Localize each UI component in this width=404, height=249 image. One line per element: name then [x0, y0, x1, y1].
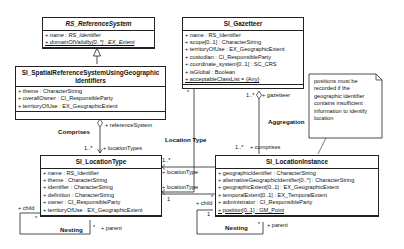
attribute-list: + name : RS_Identifier + scope[0..1] : C… [183, 31, 303, 86]
mult-location-type-one: 1 [167, 196, 170, 203]
mult-location-types: 1..* [84, 145, 92, 152]
class-si-gazetteer[interactable]: SI_Gazetteer + name : RS_Identifier + sc… [182, 17, 304, 89]
mult-comprises: 1..* [235, 144, 243, 151]
class-si-spatial-reference-system[interactable]: SI_SpatialReferenceSystemUsingGeographic… [15, 66, 166, 120]
aggregation-diamond-icon [98, 119, 103, 127]
assoc-name-nesting-type: Nesting [60, 226, 83, 233]
role-child-type: + child [18, 205, 34, 212]
attribute: + territoryOfUse : EX_GeographicExtent [43, 207, 159, 214]
class-si-location-instance[interactable]: SI_LocationInstance + geographicIdentifi… [215, 155, 379, 217]
assoc-name-comprises: Comprises [58, 128, 90, 135]
attribute: + temporalExtent[0..1] : EX_TemporalExte… [218, 192, 376, 199]
attribute: + position[0..1] : GM_Point [218, 207, 376, 214]
attribute: + overallOwner : CI_ResponsibleParty [18, 95, 163, 102]
mult-parent-type: * [93, 224, 95, 231]
class-name: SI_Gazetteer [183, 18, 303, 31]
attribute: + custodian : CI_ResponsibleParty [185, 54, 301, 61]
class-name: SI_LocationInstance [216, 156, 378, 169]
class-si-location-type[interactable]: SI_LocationType + name : RS_Identifier +… [40, 155, 162, 217]
attribute-list: + name : RS_Identifier + domainOfValidit… [43, 31, 154, 49]
mult-gazetteer: 1..* [246, 92, 254, 99]
mult-child-instance: * [211, 194, 213, 201]
class-name-line1: SI_SpatialReferenceSystemUsingGeographic [17, 69, 164, 77]
mult-location-type-top: 1..* [162, 157, 170, 164]
role-reference-system: + referenceSystem [105, 122, 152, 129]
role-location-type-b: + locationType [162, 184, 198, 191]
locationtype-assoc-line [162, 160, 222, 167]
aggregation-diamond-icon [257, 91, 262, 99]
attribute: + alternativeGeographicIdentifier[0..*] … [218, 177, 376, 184]
attribute: + coordinate_system[0..1] : SC_CRS [185, 61, 301, 68]
attribute: + territoryOfUse : EX_GeographicExtent [185, 46, 301, 53]
note-text: positions must be recorded if the geogra… [310, 75, 380, 125]
generalization-arrow-icon [94, 48, 101, 56]
note-anchor-line [318, 138, 326, 154]
class-name: SI_LocationType [41, 156, 161, 169]
attribute: + scope[0..1] : CharacterString [185, 39, 301, 46]
attribute: + isGlobal : Boolean [185, 69, 301, 76]
attribute: + territoryOfUse : EX_GeographicExtent [18, 103, 163, 110]
role-parent-instance: + parent [267, 222, 288, 229]
attribute: + geographicIdentifier : CharacterString [218, 170, 376, 177]
role-location-types: + locationTypes [103, 145, 142, 152]
role-location-type-a: + locationType [162, 169, 198, 176]
assoc-name-location-type: Location Type [165, 136, 206, 143]
role-comprises: + comprises [250, 144, 280, 151]
mult-parent-instance: * [258, 221, 260, 228]
attribute-list: + theme : CharacterString + overallOwner… [16, 87, 165, 112]
attribute: + theme : CharacterString [18, 88, 163, 95]
attribute: + owner : CI_ResponsibleParty [43, 199, 159, 206]
attribute: + theme : CharacterString [43, 177, 159, 184]
attribute: + administrator : CI_ResponsibleParty [218, 199, 376, 206]
class-name: SI_SpatialReferenceSystemUsingGeographic… [16, 67, 165, 87]
attribute: + name : RS_Identifier [185, 32, 301, 39]
role-child-instance: + child [196, 200, 212, 207]
attribute: + domainOfValidity[0..*] : EX_Extent [45, 39, 152, 46]
attribute: + name : RS_Identifier [45, 32, 152, 39]
role-parent-type: + parent [101, 225, 122, 232]
assoc-name-aggregation: Aggregation [268, 118, 304, 125]
mult-gazetteer-star: * [187, 89, 189, 96]
attribute-list: + geographicIdentifier : CharacterString… [216, 169, 378, 216]
attribute: + geographicExtent[0..1] : EX_Geographic… [218, 184, 376, 191]
attribute-list: + name : RS_Identifier + theme : Charact… [41, 169, 161, 216]
role-gazetteer: + gazetteer [262, 92, 290, 99]
attribute: + acceptableClassList = {Any} [185, 76, 301, 83]
attribute: + definition : CharacterString [43, 192, 159, 199]
attribute: + identifier : CharacterString [43, 184, 159, 191]
mult-child-type: * [35, 215, 37, 222]
mult-one-instance: 1 [207, 211, 210, 218]
class-name-line2: Identifiers [17, 77, 164, 85]
assoc-name-nesting-instance: Nesting [225, 224, 248, 231]
class-rs-reference-system[interactable]: RS_ReferenceSystem + name : RS_Identifie… [42, 17, 155, 49]
attribute: + name : RS_Identifier [43, 170, 159, 177]
class-name: RS_ReferenceSystem [43, 18, 154, 31]
